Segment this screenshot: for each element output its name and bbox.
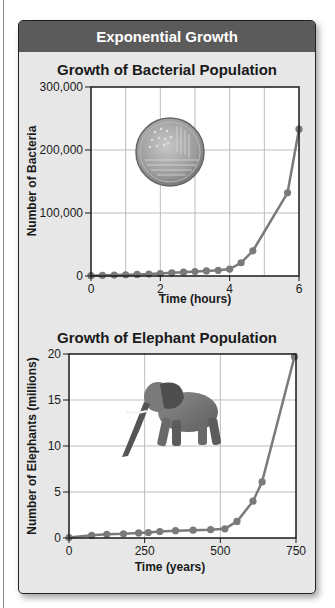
data-point (191, 268, 198, 275)
data-point (238, 259, 245, 266)
y-tick-label: 20 (48, 347, 62, 361)
y-tick-label: 0 (54, 531, 61, 545)
bacteria-chart: Growth of Bacterial Population (25, 61, 303, 306)
bacteria-x-axis-label: Time (hours) (159, 292, 231, 306)
data-point (120, 530, 127, 537)
bacteria-chart-title: Growth of Bacterial Population (57, 61, 277, 78)
x-tick-label: 250 (135, 544, 155, 558)
data-point (221, 525, 228, 532)
data-point (180, 269, 187, 276)
bacteria-y-axis-label: Number of Bacteria (25, 125, 39, 236)
y-tick-label: 5 (54, 485, 61, 499)
petri-dish-illustration (136, 118, 204, 186)
data-point (134, 271, 141, 278)
data-point (226, 265, 233, 272)
x-tick-label: 500 (210, 544, 230, 558)
data-point (111, 271, 118, 278)
data-point (145, 529, 152, 536)
data-point (249, 498, 256, 505)
y-tick-label: 10 (48, 439, 62, 453)
data-point (156, 528, 163, 535)
elephant-chart: Growth of Elephant Population (25, 329, 306, 574)
x-tick-label: 0 (88, 282, 95, 296)
y-tick-label: 100,000 (40, 206, 84, 220)
y-tick-label: 300,000 (40, 80, 84, 94)
y-tick-label: 0 (76, 269, 83, 283)
data-point (259, 478, 266, 485)
y-tick-label: 15 (48, 393, 62, 407)
x-tick-label: 750 (286, 544, 306, 558)
data-point (103, 531, 110, 538)
data-point (284, 189, 291, 196)
data-point (135, 529, 142, 536)
elephant-x-axis-label: Time (years) (135, 560, 205, 574)
x-tick-label: 6 (296, 282, 303, 296)
data-point (249, 247, 256, 254)
y-tick-label: 200,000 (40, 143, 84, 157)
data-point (215, 267, 222, 274)
charts-canvas: Growth of Bacterial Population (0, 0, 335, 608)
data-point (233, 518, 240, 525)
elephant-chart-title: Growth of Elephant Population (57, 329, 277, 346)
data-point (207, 526, 214, 533)
data-point (122, 271, 129, 278)
x-tick-label: 0 (66, 544, 73, 558)
elephant-y-axis-label: Number of Elephants (millions) (25, 357, 39, 534)
data-point (189, 527, 196, 534)
data-point (203, 267, 210, 274)
data-point (172, 527, 179, 534)
